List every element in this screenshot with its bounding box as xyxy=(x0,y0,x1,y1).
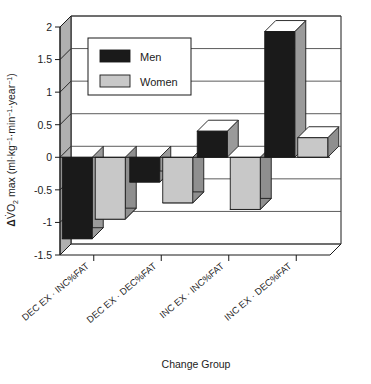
chart-legend: MenWomen xyxy=(88,38,191,95)
x-axis-title: Change Group xyxy=(162,358,231,370)
y-axis-title-mid2: ·year xyxy=(5,84,17,108)
y-axis-title-close: ) xyxy=(5,73,17,77)
y-tick-label: 2 xyxy=(46,21,52,33)
legend-swatch-women xyxy=(100,75,130,87)
y-tick-label: 0 xyxy=(46,151,52,163)
y-tick-label: -1 xyxy=(43,216,52,228)
y-axis-title-vdot: V̇ xyxy=(5,212,17,219)
y-axis-title-exp2: −1 xyxy=(6,109,13,117)
chart-container: 21.510.50-0.5-1-1.5 DEC EX · INC%FATDEC … xyxy=(0,0,371,384)
legend-swatch-men xyxy=(100,50,130,62)
legend-label-men: Men xyxy=(140,51,161,63)
y-tick-label: 1 xyxy=(46,86,52,98)
bar-women-3 xyxy=(298,127,339,158)
y-axis-title-max: max (ml·kg xyxy=(5,145,17,200)
y-tick-label: 1.5 xyxy=(37,53,52,65)
y-axis-title-exp3: −1 xyxy=(6,77,13,85)
y-tick-label: 0.5 xyxy=(37,119,52,131)
y-axis-title-o: O xyxy=(5,204,17,212)
y-axis-title-exp1: −1 xyxy=(6,137,13,145)
bar-men-2 xyxy=(197,120,238,157)
y-tick-label: -0.5 xyxy=(34,184,52,196)
y-tick-label: -1.5 xyxy=(34,249,52,261)
bar-chart: 21.510.50-0.5-1-1.5 DEC EX · INC%FATDEC … xyxy=(0,0,371,384)
legend-label-women: Women xyxy=(140,76,178,88)
y-axis-title-mid1: ·min xyxy=(5,117,17,138)
